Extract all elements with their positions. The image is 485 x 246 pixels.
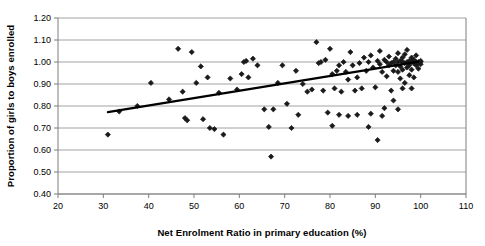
y-axis-tick-labels: 0.400.500.600.700.800.901.001.101.20 [33, 13, 51, 199]
y-axis-label: Proportion of girls to boys enrolled [5, 25, 16, 188]
chart-figure: 2030405060708090100110 0.400.500.600.700… [0, 0, 485, 246]
x-tick-label: 70 [280, 201, 290, 211]
y-tick-label: 0.90 [33, 79, 51, 89]
x-tick-label: 110 [459, 201, 473, 211]
x-tick-label: 40 [144, 201, 154, 211]
y-tick-label: 0.80 [33, 101, 51, 111]
y-tick-label: 0.40 [33, 189, 51, 199]
x-tick-label: 80 [325, 201, 335, 211]
y-tick-label: 0.70 [33, 123, 51, 133]
x-axis-label: Net Enrolment Ratio in primary education… [157, 227, 366, 238]
x-tick-label: 90 [370, 201, 380, 211]
y-tick-label: 1.00 [33, 57, 51, 67]
x-tick-label: 30 [98, 201, 108, 211]
x-tick-label: 50 [189, 201, 199, 211]
scatter-chart: 2030405060708090100110 0.400.500.600.700… [0, 0, 485, 246]
y-tick-label: 0.60 [33, 145, 51, 155]
x-tick-label: 100 [413, 201, 428, 211]
x-tick-label: 20 [53, 201, 63, 211]
y-tick-label: 1.10 [33, 35, 51, 45]
x-tick-label: 60 [234, 201, 244, 211]
y-tick-label: 1.20 [33, 13, 51, 23]
y-tick-label: 0.50 [33, 167, 51, 177]
